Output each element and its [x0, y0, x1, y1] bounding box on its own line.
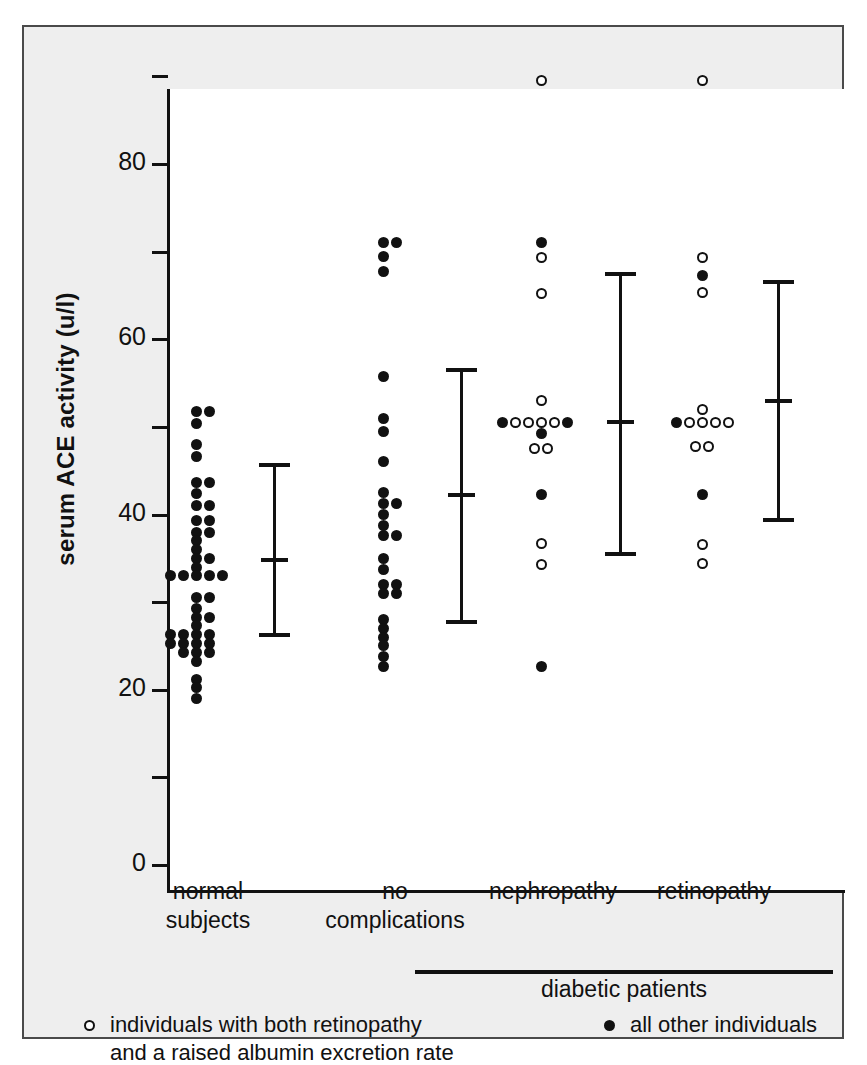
y-axis-title: serum ACE activity (u/l) [52, 219, 80, 639]
y-tick-label-text: 80 [88, 147, 146, 176]
data-point [536, 252, 547, 263]
data-point [378, 487, 389, 498]
data-point [191, 439, 202, 450]
data-point [191, 406, 202, 417]
data-point [697, 558, 708, 569]
data-point [536, 428, 547, 439]
data-point [391, 498, 402, 509]
data-point [697, 489, 708, 500]
data-point [204, 647, 215, 658]
data-point [684, 417, 695, 428]
data-point [204, 477, 215, 488]
legend-label-line2: and a raised albumin excretion rate [110, 1039, 454, 1065]
y-tick-50 [152, 426, 168, 429]
y-tick-0 [152, 864, 168, 867]
y-tick-label-text: 20 [88, 673, 146, 702]
data-point [378, 640, 389, 651]
errorbar-line [619, 274, 622, 554]
errorbar-cap-upper [259, 463, 290, 467]
errorbar-cap-lower [763, 518, 794, 522]
y-tick-90 [152, 75, 168, 78]
data-point [536, 237, 547, 248]
data-point [697, 252, 708, 263]
data-point [191, 682, 202, 693]
figure-frame: 020406080 serum ACE activity (u/l) norma… [22, 25, 844, 1039]
data-point [703, 441, 714, 452]
data-point [378, 251, 389, 262]
data-point [191, 515, 202, 526]
data-point [191, 418, 202, 429]
data-point [536, 75, 547, 86]
data-point [191, 592, 202, 603]
data-point [378, 588, 389, 599]
data-point [536, 538, 547, 549]
data-point [536, 559, 547, 570]
y-axis-line [167, 89, 170, 893]
data-point [191, 570, 202, 581]
errorbar-mean-tick [261, 558, 288, 562]
data-point [697, 539, 708, 550]
legend-label-line1: all other individuals [630, 1011, 817, 1039]
legend-entry-open: individuals with both retinopathyand a r… [110, 1011, 454, 1065]
y-tick-label-20: 20 [80, 673, 146, 703]
open-circle-icon [84, 1020, 95, 1031]
y-tick-10 [152, 776, 168, 779]
data-point [697, 417, 708, 428]
data-point [391, 530, 402, 541]
data-point [378, 553, 389, 564]
data-point [204, 500, 215, 511]
data-point [204, 515, 215, 526]
data-point [165, 638, 176, 649]
data-point [536, 661, 547, 672]
errorbar-cap-upper [446, 368, 477, 372]
y-tick-label-text: 0 [88, 848, 146, 877]
legend-entry-filled: all other individuals [630, 1011, 817, 1039]
errorbar-mean-tick [765, 399, 792, 403]
errorbar-mean-tick [607, 420, 634, 424]
data-point [378, 413, 389, 424]
data-point [165, 570, 176, 581]
data-point [378, 564, 389, 575]
y-tick-40 [152, 514, 168, 517]
y-tick-label-40: 40 [80, 498, 146, 528]
data-point [204, 406, 215, 417]
data-point [191, 451, 202, 462]
y-tick-30 [152, 601, 168, 604]
data-point [697, 404, 708, 415]
data-point [191, 500, 202, 511]
data-point [671, 417, 682, 428]
y-tick-label-text: 60 [88, 322, 146, 351]
data-point [204, 612, 215, 623]
errorbar-cap-lower [259, 633, 290, 637]
y-tick-20 [152, 689, 168, 692]
x-axis-label-line2: complications [285, 906, 505, 935]
data-point [191, 477, 202, 488]
diabetic-patients-bracket [415, 970, 833, 974]
x-axis-label-retinopathy: retinopathy [604, 877, 824, 906]
data-point [378, 509, 389, 520]
data-point [697, 287, 708, 298]
errorbar-cap-upper [763, 280, 794, 284]
data-point [723, 417, 734, 428]
plot-canvas [167, 89, 845, 893]
data-point [204, 570, 215, 581]
data-point [697, 75, 708, 86]
data-point [391, 237, 402, 248]
data-point [391, 588, 402, 599]
data-point [191, 656, 202, 667]
y-tick-label-80: 80 [80, 147, 146, 177]
data-point [178, 570, 189, 581]
data-point [697, 270, 708, 281]
data-point [204, 553, 215, 564]
data-point [378, 661, 389, 672]
data-point [204, 527, 215, 538]
errorbar-cap-lower [605, 552, 636, 556]
y-tick-70 [152, 251, 168, 254]
errorbar-cap-upper [605, 272, 636, 276]
data-point [536, 417, 547, 428]
y-tick-label-60: 60 [80, 322, 146, 352]
data-point [378, 237, 389, 248]
data-point [536, 489, 547, 500]
data-point [217, 570, 228, 581]
y-tick-label-0: 0 [80, 848, 146, 878]
